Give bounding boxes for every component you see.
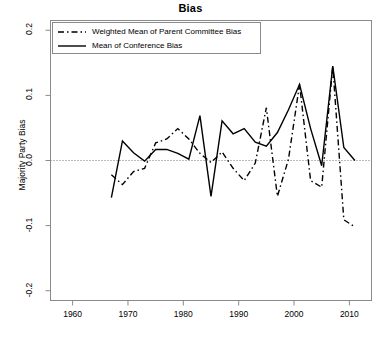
x-tick-label: 1990 [219,309,259,319]
legend-item-mean-conference-bias: Mean of Conference Bias [57,39,182,53]
legend-item-weighted-mean-parent-committee-bias: Weighted Mean of Parent Committee Bias [57,25,241,39]
x-tick-label: 1970 [108,309,148,319]
series-line-mean-conference-bias [111,66,355,198]
x-tick-label: 2010 [329,309,369,319]
dashed-line-swatch [57,27,87,37]
y-tick-label: 0.2 [24,14,34,44]
x-axis-ticks [73,301,350,306]
x-tick-label: 2000 [274,309,314,319]
x-tick-label: 1980 [163,309,203,319]
solid-line-swatch [57,41,87,51]
legend-label: Weighted Mean of Parent Committee Bias [92,27,241,37]
x-tick-label: 1960 [53,309,93,319]
y-tick-label: -0.2 [24,275,34,305]
y-tick-label: 0.0 [24,145,34,175]
caption-sliver [4,330,377,337]
chart-legend: Weighted Mean of Parent Committee Bias M… [52,22,261,54]
y-axis-ticks [46,30,51,290]
legend-label: Mean of Conference Bias [92,41,182,51]
series-line-weighted-mean-parent-committee-bias [111,66,355,227]
y-tick-label: -0.1 [24,210,34,240]
y-tick-label: 0.1 [24,79,34,109]
chart-figure: Bias Majority Party Bias -0.2-0.10.00.10… [0,0,381,338]
